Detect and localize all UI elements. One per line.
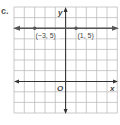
y-axis-label: y [57, 8, 63, 17]
x-axis-label: x [109, 84, 115, 93]
y-axis [64, 7, 68, 114]
point-1-5 [74, 26, 78, 30]
x-axis-left-arrow-icon [14, 80, 19, 84]
y-axis-up-arrow-icon [64, 7, 68, 12]
origin-label: O [57, 84, 64, 93]
coordinate-plane: x y O (−3, 5) (1, 5) [0, 0, 120, 125]
line-right-arrow-icon [112, 26, 119, 31]
point-label-neg3-5: (−3, 5) [36, 32, 56, 40]
point-label-1-5: (1, 5) [78, 32, 94, 40]
point-neg3-5 [33, 26, 37, 30]
